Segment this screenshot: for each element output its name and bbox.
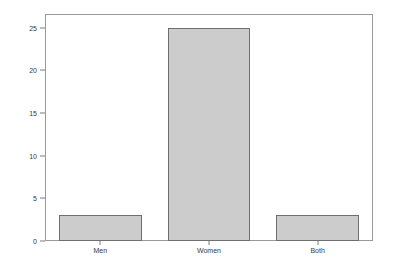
y-axis-ticks: 0510152025 bbox=[0, 0, 45, 271]
x-axis-tick-label-both: Both bbox=[310, 247, 324, 254]
x-axis-tick-mark bbox=[317, 241, 318, 245]
bar-chart: Frequency 0510152025 MenWomenBoth bbox=[0, 0, 394, 271]
y-axis-tick-label: 20 bbox=[29, 67, 37, 74]
x-axis-tick-mark bbox=[209, 241, 210, 245]
y-axis-tick-label: 25 bbox=[29, 24, 37, 31]
x-axis-tick-label-women: Women bbox=[197, 247, 221, 254]
y-axis-tick-label: 5 bbox=[33, 195, 37, 202]
x-axis-tick-mark bbox=[100, 241, 101, 245]
y-axis-tick-label: 10 bbox=[29, 152, 37, 159]
plot-area bbox=[46, 15, 372, 241]
y-axis-tick-label: 0 bbox=[33, 238, 37, 245]
bar-women bbox=[168, 28, 251, 241]
x-axis: MenWomenBoth bbox=[46, 241, 372, 271]
x-axis-tick-label-men: Men bbox=[94, 247, 108, 254]
bar-both bbox=[276, 215, 359, 241]
bar-men bbox=[59, 215, 142, 241]
y-axis-tick-label: 15 bbox=[29, 110, 37, 117]
